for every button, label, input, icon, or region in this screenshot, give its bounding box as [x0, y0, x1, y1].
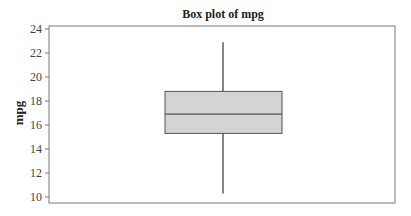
y-axis: 1012141618202224: [30, 22, 49, 204]
y-tick-label: 14: [30, 142, 42, 156]
interquartile-box: [165, 91, 282, 133]
y-tick-label: 22: [30, 46, 42, 60]
y-tick-label: 12: [30, 166, 42, 180]
box-plot-chart: Box plot of mpg mpg 1012141618202224: [0, 0, 411, 216]
y-tick-label: 20: [30, 70, 42, 84]
y-tick-label: 16: [30, 118, 42, 132]
y-tick-label: 24: [30, 22, 42, 36]
y-tick-label: 18: [30, 94, 42, 108]
y-tick-label: 10: [30, 190, 42, 204]
y-axis-label: mpg: [11, 100, 26, 125]
chart-title: Box plot of mpg: [182, 7, 264, 21]
box-series: [165, 42, 282, 193]
